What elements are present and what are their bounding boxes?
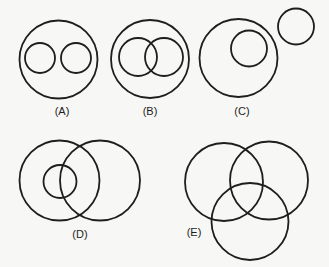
panel-e-label: (E) xyxy=(187,226,202,238)
panel-c-separate-circle xyxy=(278,9,314,45)
panel-b: (B) xyxy=(111,20,189,117)
venn-diagram-canvas: (A) (B) (C) (D) (E) xyxy=(0,0,329,267)
panel-a-inner-left-circle xyxy=(25,43,55,73)
venn-diagram-figure: (A) (B) (C) (D) (E) xyxy=(0,0,329,267)
panel-c-outer-circle xyxy=(200,19,278,97)
panel-a: (A) xyxy=(20,21,98,117)
panel-a-label: (A) xyxy=(55,105,70,117)
panel-d: (D) xyxy=(20,141,141,240)
panel-c-label: (C) xyxy=(234,105,249,117)
panel-b-outer-circle xyxy=(111,20,189,98)
panel-c-inner-circle xyxy=(231,31,267,67)
panel-a-outer-circle xyxy=(20,21,98,99)
panel-c: (C) xyxy=(200,9,315,117)
panel-b-label: (B) xyxy=(143,105,158,117)
panel-b-inner-right-circle xyxy=(145,38,183,76)
panel-a-inner-right-circle xyxy=(61,43,91,73)
panel-e-top-left-circle xyxy=(185,143,263,221)
panel-d-label: (D) xyxy=(72,228,87,240)
panel-e: (E) xyxy=(185,142,308,261)
panel-e-top-right-circle xyxy=(230,142,308,220)
